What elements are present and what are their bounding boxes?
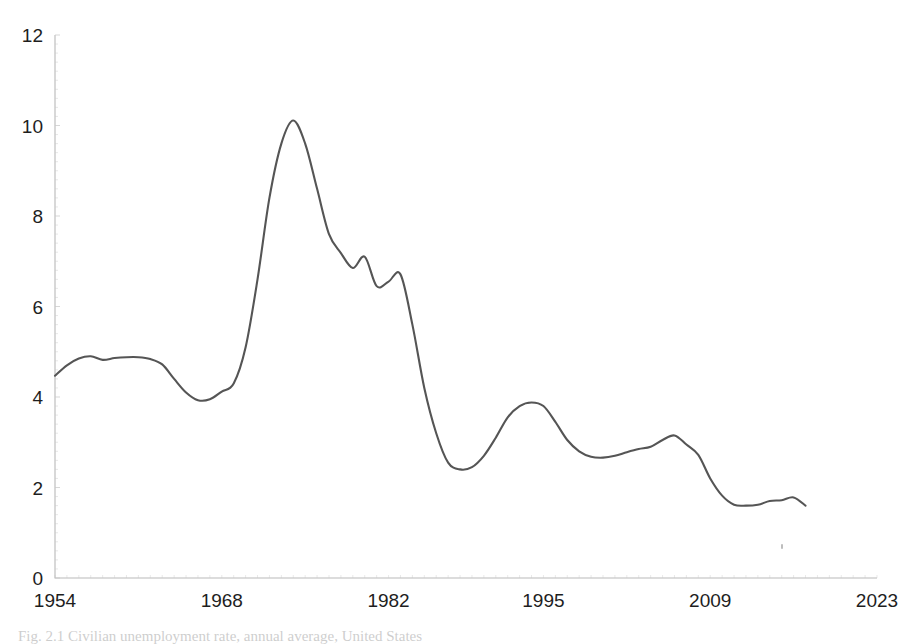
y-tick-label: 4 [32, 387, 43, 408]
y-tick-label: 12 [22, 25, 43, 46]
chart-tick-marks [55, 35, 877, 578]
y-tick-label: 8 [32, 206, 43, 227]
figure-container: 024681012 195419681982199520092023 Fig. … [0, 0, 923, 644]
chart-axes [55, 35, 877, 578]
scan-artifact-speck [781, 544, 783, 549]
axis-lines [55, 35, 877, 578]
y-axis-tick-labels: 024681012 [22, 25, 44, 589]
chart-series [55, 121, 806, 506]
y-tick-label: 6 [32, 297, 43, 318]
line-chart: 024681012 195419681982199520092023 [0, 0, 923, 644]
y-tick-label: 0 [32, 568, 43, 589]
x-tick-label: 1954 [34, 590, 77, 611]
x-tick-label: 1995 [522, 590, 564, 611]
x-axis-tick-labels: 195419681982199520092023 [34, 590, 898, 611]
x-tick-label: 2023 [856, 590, 898, 611]
figure-caption: Fig. 2.1 Civilian unemployment rate, ann… [18, 628, 908, 644]
y-tick-label: 2 [32, 478, 43, 499]
x-tick-label: 1982 [367, 590, 409, 611]
x-tick-label: 1968 [201, 590, 243, 611]
y-tick-label: 10 [22, 116, 43, 137]
x-tick-label: 2009 [689, 590, 731, 611]
series-line-unemployment-rate [55, 121, 806, 506]
